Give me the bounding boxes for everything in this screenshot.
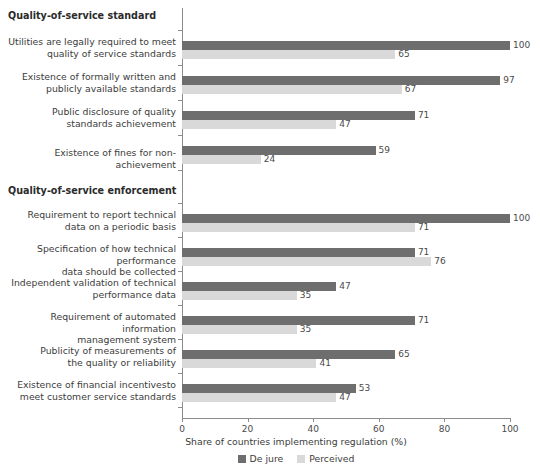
category-label: Publicity of measurements of the quality… — [0, 345, 176, 368]
category-label: Utilities are legally required to meet q… — [0, 36, 176, 59]
legend-label: De jure — [250, 453, 284, 464]
x-axis-tick-label: 100 — [501, 424, 518, 434]
bar-perceived — [182, 223, 415, 232]
category-label: Existence of formally written and public… — [0, 71, 176, 94]
bar-perceived — [182, 85, 402, 94]
bar-value-label: 71 — [418, 223, 429, 232]
category-label: Existence of financial incentivesto meet… — [0, 379, 176, 402]
legend-label: Perceived — [309, 453, 354, 464]
bar-value-label: 71 — [418, 111, 429, 120]
x-axis-tick — [444, 418, 445, 422]
bar-de-jure — [182, 316, 415, 325]
bar-value-label: 65 — [398, 350, 409, 359]
bar-perceived — [182, 120, 336, 129]
bar-de-jure — [182, 350, 395, 359]
legend-item[interactable]: Perceived — [297, 453, 354, 464]
bar-de-jure — [182, 41, 510, 50]
bar-value-label: 67 — [405, 85, 416, 94]
bar-value-label: 41 — [319, 359, 330, 368]
bar-perceived — [182, 325, 297, 334]
bar-perceived — [182, 257, 431, 266]
bar-value-label: 59 — [379, 146, 390, 155]
bar-value-label: 100 — [513, 41, 530, 50]
group-header-standard: Quality-of-service standard — [8, 10, 156, 21]
x-axis-tick — [313, 418, 314, 422]
bar-value-label: 47 — [339, 393, 350, 402]
bar-value-label: 65 — [398, 50, 409, 59]
x-axis-tick-label: 80 — [439, 424, 450, 434]
bar-de-jure — [182, 248, 415, 257]
category-label: Public disclosure of quality standards a… — [0, 106, 176, 129]
bar-de-jure — [182, 214, 510, 223]
x-axis-title-wrap: Share of countries implementing regulati… — [0, 436, 540, 447]
category-label: Existence of fines for non-achievement — [0, 147, 176, 170]
bar-value-label: 71 — [418, 316, 429, 325]
bar-perceived — [182, 359, 316, 368]
x-axis-tick — [379, 418, 380, 422]
x-axis-tick-label: 20 — [242, 424, 253, 434]
category-label: Specification of how technical performan… — [0, 243, 176, 278]
bar-chart: Quality-of-service standard Quality-of-s… — [0, 0, 540, 470]
bar-value-label: 97 — [503, 76, 514, 85]
bar-de-jure — [182, 282, 336, 291]
bar-value-label: 71 — [418, 248, 429, 257]
legend-item[interactable]: De jure — [238, 453, 284, 464]
bar-value-label: 24 — [264, 155, 275, 164]
bar-value-label: 35 — [300, 325, 311, 334]
bar-value-label: 53 — [359, 384, 370, 393]
legend: De jurePerceived — [0, 453, 540, 464]
bar-de-jure — [182, 111, 415, 120]
bar-de-jure — [182, 76, 500, 85]
x-axis-tick-label: 0 — [179, 424, 185, 434]
group-header-enforcement: Quality-of-service enforcement — [8, 185, 176, 196]
bar-de-jure — [182, 146, 376, 155]
x-axis-tick — [182, 418, 183, 422]
bar-value-label: 47 — [339, 282, 350, 291]
bar-de-jure — [182, 384, 356, 393]
bar-perceived — [182, 291, 297, 300]
category-label: Requirement of automated information man… — [0, 311, 176, 346]
bar-value-label: 47 — [339, 120, 350, 129]
bar-perceived — [182, 50, 395, 59]
bars-layer: 1006597677147592410071717647357135654153… — [182, 8, 510, 418]
bar-value-label: 100 — [513, 214, 530, 223]
bar-perceived — [182, 155, 261, 164]
legend-items: De jurePerceived — [231, 453, 362, 464]
bar-value-label: 76 — [434, 257, 445, 266]
bar-perceived — [182, 393, 336, 402]
x-axis-tick-label: 40 — [307, 424, 318, 434]
x-axis-tick-label: 60 — [373, 424, 384, 434]
legend-swatch-icon — [297, 455, 305, 463]
x-axis-tick — [510, 418, 511, 422]
bar-value-label: 35 — [300, 291, 311, 300]
legend-swatch-icon — [238, 455, 246, 463]
category-label: Requirement to report technical data on … — [0, 209, 176, 232]
category-label: Independent validation of technical perf… — [0, 277, 176, 300]
x-axis-tick — [248, 418, 249, 422]
x-axis-title: Share of countries implementing regulati… — [185, 436, 407, 447]
